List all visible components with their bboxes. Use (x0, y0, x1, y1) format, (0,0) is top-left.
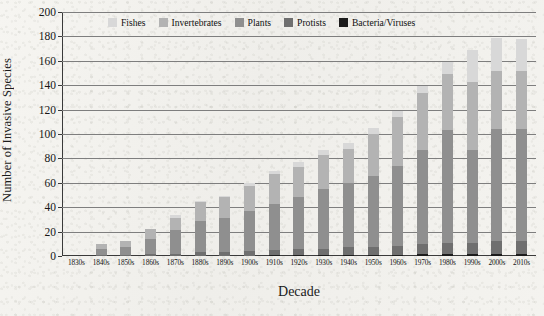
bar-stack[interactable] (244, 183, 255, 256)
bar-stack[interactable] (145, 229, 156, 256)
bar-slot[interactable] (188, 12, 213, 256)
bar-stack[interactable] (269, 171, 280, 256)
bar-segment[interactable] (343, 149, 354, 183)
bar-segment[interactable] (467, 82, 478, 150)
bar-slot[interactable] (361, 12, 386, 256)
bar-slot[interactable] (336, 12, 361, 256)
bar-segment[interactable] (442, 62, 453, 74)
bar-segment[interactable] (219, 197, 230, 218)
bar-segment[interactable] (368, 176, 379, 248)
bar-segment[interactable] (442, 254, 453, 256)
bar-segment[interactable] (417, 150, 428, 244)
bar-segment[interactable] (269, 174, 280, 203)
bar-segment[interactable] (244, 211, 255, 251)
bar-slot[interactable] (163, 12, 188, 256)
bar-stack[interactable] (516, 39, 527, 256)
bar-segment[interactable] (293, 197, 304, 248)
bar-stack[interactable] (491, 38, 502, 256)
bar-segment[interactable] (516, 254, 527, 256)
bar-segment[interactable] (516, 241, 527, 253)
bar-segment[interactable] (516, 71, 527, 130)
bar-segment[interactable] (343, 247, 354, 254)
bar-segment[interactable] (269, 255, 280, 256)
bar-segment[interactable] (467, 50, 478, 82)
bar-segment[interactable] (120, 247, 131, 254)
bar-segment[interactable] (145, 239, 156, 254)
bar-segment[interactable] (318, 155, 329, 189)
bar-stack[interactable] (170, 215, 181, 256)
bar-slot[interactable] (410, 12, 435, 256)
bar-segment[interactable] (318, 255, 329, 256)
bar-segment[interactable] (516, 129, 527, 241)
bar-segment[interactable] (318, 189, 329, 249)
bar-stack[interactable] (467, 50, 478, 256)
bar-stack[interactable] (120, 241, 131, 256)
bar-segment[interactable] (145, 229, 156, 239)
bar-slot[interactable] (89, 12, 114, 256)
bar-segment[interactable] (392, 166, 403, 247)
bar-segment[interactable] (368, 134, 379, 175)
bar-stack[interactable] (219, 196, 230, 256)
bar-slot[interactable] (138, 12, 163, 256)
bar-segment[interactable] (293, 167, 304, 198)
bar-segment[interactable] (491, 129, 502, 241)
bar-slot[interactable] (237, 12, 262, 256)
bar-segment[interactable] (219, 218, 230, 252)
bar-segment[interactable] (417, 254, 428, 256)
bar-segment[interactable] (145, 254, 156, 256)
bar-stack[interactable] (318, 150, 329, 256)
bar-segment[interactable] (170, 218, 181, 230)
bar-slot[interactable] (509, 12, 534, 256)
bar-segment[interactable] (293, 255, 304, 256)
bar-stack[interactable] (417, 86, 428, 256)
bar-segment[interactable] (343, 183, 354, 248)
bar-slot[interactable] (287, 12, 312, 256)
bar-segment[interactable] (491, 71, 502, 130)
bar-segment[interactable] (491, 254, 502, 256)
bar-segment[interactable] (170, 254, 181, 256)
bar-stack[interactable] (442, 62, 453, 256)
bar-segment[interactable] (120, 255, 131, 256)
bar-segment[interactable] (195, 252, 206, 256)
bar-segment[interactable] (195, 202, 206, 220)
bar-segment[interactable] (368, 255, 379, 256)
bar-segment[interactable] (491, 38, 502, 71)
bar-segment[interactable] (442, 130, 453, 242)
bar-segment[interactable] (467, 243, 478, 254)
bar-segment[interactable] (417, 93, 428, 150)
bar-segment[interactable] (244, 251, 255, 256)
bar-segment[interactable] (392, 246, 403, 255)
bar-segment[interactable] (467, 150, 478, 243)
bar-segment[interactable] (96, 255, 107, 256)
bar-segment[interactable] (219, 252, 230, 256)
bar-segment[interactable] (392, 255, 403, 256)
bar-slot[interactable] (64, 12, 89, 256)
bar-segment[interactable] (442, 243, 453, 254)
bar-segment[interactable] (491, 241, 502, 253)
bar-stack[interactable] (368, 128, 379, 256)
bar-segment[interactable] (516, 39, 527, 71)
bar-segment[interactable] (368, 247, 379, 254)
bar-stack[interactable] (392, 111, 403, 256)
bar-segment[interactable] (195, 221, 206, 253)
bar-slot[interactable] (484, 12, 509, 256)
bar-segment[interactable] (170, 230, 181, 253)
bar-segment[interactable] (467, 254, 478, 256)
bar-segment[interactable] (269, 204, 280, 250)
bar-slot[interactable] (435, 12, 460, 256)
bar-slot[interactable] (460, 12, 485, 256)
bar-segment[interactable] (392, 117, 403, 166)
bar-stack[interactable] (96, 244, 107, 256)
bar-segment[interactable] (244, 186, 255, 210)
bar-slot[interactable] (113, 12, 138, 256)
bar-segment[interactable] (417, 244, 428, 254)
bar-stack[interactable] (343, 143, 354, 256)
bar-stack[interactable] (293, 162, 304, 256)
bar-slot[interactable] (212, 12, 237, 256)
bar-slot[interactable] (311, 12, 336, 256)
bar-segment[interactable] (343, 255, 354, 256)
bar-slot[interactable] (386, 12, 411, 256)
bar-stack[interactable] (195, 201, 206, 256)
bar-slot[interactable] (262, 12, 287, 256)
bar-segment[interactable] (442, 74, 453, 130)
